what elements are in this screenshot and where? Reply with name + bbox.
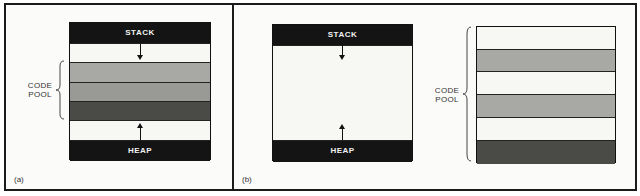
code-pool-b	[476, 26, 616, 163]
code-pool-line1: CODE	[25, 81, 55, 90]
code-pool-line1: CODE	[432, 86, 462, 95]
free-slot-3	[477, 118, 615, 141]
code-block-3	[70, 102, 210, 121]
stack-region: STACK	[273, 25, 412, 46]
free-slot-1	[477, 27, 615, 50]
heap-label: HEAP	[70, 146, 210, 155]
heap-region: HEAP	[70, 141, 210, 161]
code-block-3	[477, 141, 615, 164]
code-block-1	[477, 50, 615, 72]
code-block-2	[70, 83, 210, 102]
arrowhead-down-icon	[137, 55, 143, 60]
code-block-1	[70, 63, 210, 83]
heap-up-arrow-icon	[140, 127, 141, 140]
code-pool-label-b: CODE POOL	[432, 86, 462, 104]
heap-up-arrow-icon	[342, 128, 343, 140]
caption-a: (a)	[14, 175, 24, 184]
free-slot-2	[477, 72, 615, 95]
code-block-2	[477, 95, 615, 118]
stack-region: STACK	[70, 23, 210, 44]
stack-label: STACK	[273, 30, 412, 39]
arrowhead-up-icon	[137, 123, 143, 128]
arrowhead-up-icon	[339, 124, 345, 129]
brace-icon	[462, 26, 472, 162]
code-pool-label-a: CODE POOL	[25, 81, 55, 99]
arrowhead-down-icon	[339, 55, 345, 60]
heap-label: HEAP	[273, 146, 412, 155]
stack-label: STACK	[70, 28, 210, 37]
heap-region: HEAP	[273, 141, 412, 162]
code-pool-line2: POOL	[432, 95, 462, 104]
code-pool-line2: POOL	[25, 90, 55, 99]
brace-icon	[55, 60, 65, 120]
caption-b: (b)	[242, 175, 252, 184]
